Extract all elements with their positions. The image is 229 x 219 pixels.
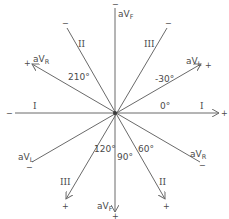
lead-II-negative-sign: − (62, 19, 69, 28)
angle-0-label: 0° (160, 101, 170, 111)
lead-III-positive-sign: + (62, 202, 69, 211)
lead-I-negative-sign: − (6, 109, 13, 118)
lead-II-positive-sign: + (163, 202, 170, 211)
hexaxial-diagram: − I I + 0° − aVF aVF + 90° + aVR 210° aV… (0, 0, 229, 219)
aVR-bottom-label: aVR (190, 149, 207, 161)
lead-II-label-upper: II (78, 39, 86, 49)
aVF-bottom-label: aVF (97, 201, 113, 213)
aVR-negative-sign: − (199, 161, 206, 170)
aVF-top-label: aVF (118, 9, 134, 21)
angle-neg30-label: -30° (155, 74, 174, 84)
lead-I-positive-sign: + (221, 109, 228, 118)
aVR-top-label: aVR (33, 54, 50, 66)
angle-120-label: 120° (94, 144, 116, 154)
aVF-negative-sign: − (112, 0, 119, 9)
aVR-positive-sign: + (24, 59, 31, 68)
lead-II-label-lower: II (159, 177, 167, 187)
center-point (113, 111, 117, 115)
aVF-positive-sign: + (112, 212, 119, 219)
lead-I-label-left: I (33, 101, 37, 111)
aVL-positive-sign: + (205, 61, 212, 70)
lead-III-label-upper: III (144, 39, 155, 49)
lead-I-label-right: I (200, 101, 204, 111)
lead-III-negative-sign: − (165, 19, 172, 28)
lead-III-label-lower: III (60, 177, 71, 187)
angle-90-label: 90° (117, 152, 133, 162)
aVL-top-label: aVL (186, 56, 202, 68)
angle-210-label: 210° (68, 72, 90, 82)
aVL-negative-sign: − (26, 163, 33, 172)
angle-60-label: 60° (138, 144, 154, 154)
